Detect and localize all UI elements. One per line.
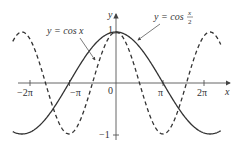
- y-axis-label: y: [107, 9, 113, 20]
- tick-label-neg-2pi: −2π: [17, 87, 33, 98]
- cos-x-half-numerator: x: [187, 9, 192, 17]
- cosine-plot: −2π −π 0 π 2π 1 −1 x y y = cos x y = cos…: [0, 0, 240, 144]
- tick-label-2pi: 2π: [197, 87, 207, 98]
- x-axis-label: x: [224, 86, 230, 97]
- tick-label-neg-pi: −π: [70, 87, 81, 98]
- tick-label-y-neg-one: −1: [99, 129, 110, 140]
- tick-label-pi: π: [158, 87, 163, 98]
- tick-label-y-one: 1: [108, 24, 113, 35]
- cos-x-half-pointer: [138, 24, 160, 40]
- cos-x-half-label: y = cos: [153, 11, 184, 22]
- cos-x-pointer: [80, 38, 95, 60]
- cos-x-label: y = cos x: [46, 25, 84, 36]
- tick-label-origin: 0: [108, 85, 113, 96]
- cos-x-half-denominator: 2: [188, 18, 192, 26]
